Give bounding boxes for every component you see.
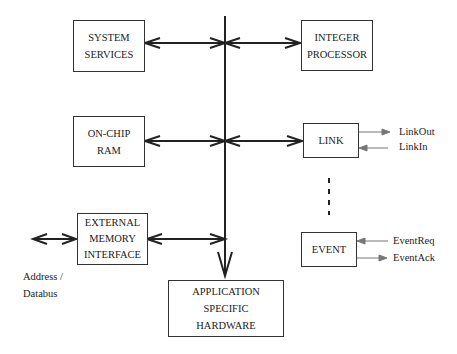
block-label-line: ON-CHIP [88, 125, 131, 142]
label-line: Address / [23, 268, 63, 285]
block-label-line: EVENT [312, 241, 346, 258]
event-req-label: EventReq [393, 234, 434, 248]
on-chip-ram-block: ON-CHIP RAM [73, 116, 145, 167]
block-label-line: APPLICATION [192, 283, 260, 300]
event-block: EVENT [301, 232, 357, 267]
link-in-label: LinkIn [399, 140, 428, 154]
block-label-line: PROCESSOR [307, 46, 367, 63]
block-label-line: MEMORY [89, 231, 136, 247]
link-block: LINK [303, 123, 359, 158]
block-label-line: INTEGER [315, 29, 360, 46]
external-memory-interface-block: EXTERNAL MEMORY INTERFACE [77, 213, 148, 265]
block-label-line: HARDWARE [196, 317, 256, 334]
integer-processor-block: INTEGER PROCESSOR [301, 20, 373, 71]
block-label-line: SYSTEM [88, 29, 129, 46]
address-databus-label: Address / Databus [23, 268, 63, 302]
event-ack-label: EventAck [393, 251, 435, 265]
block-label-line: EXTERNAL [85, 215, 140, 231]
block-label-line: LINK [318, 132, 343, 149]
application-specific-hardware-block: APPLICATION SPECIFIC HARDWARE [168, 280, 284, 337]
block-label-line: SPECIFIC [204, 300, 249, 317]
block-label-line: SERVICES [85, 46, 134, 63]
label-line: Databus [23, 285, 63, 302]
block-label-line: INTERFACE [84, 247, 141, 263]
block-label-line: RAM [97, 142, 121, 159]
system-services-block: SYSTEM SERVICES [73, 20, 145, 72]
link-out-label: LinkOut [399, 125, 435, 139]
